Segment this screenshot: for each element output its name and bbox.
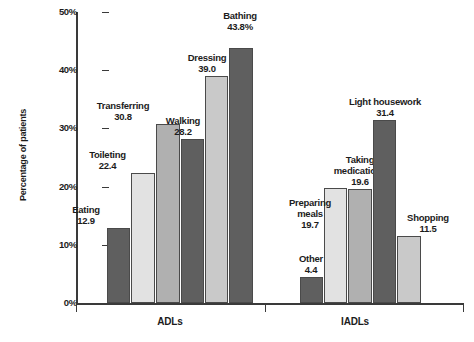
y-tick-label-50: 50% xyxy=(45,6,77,17)
bar-label-preparing-meals-line2: meals xyxy=(281,208,339,219)
bar-annot-bathing: Bathing 43.8% xyxy=(209,10,271,32)
bar-label-shopping: Shopping xyxy=(400,212,456,223)
x-tick-group-separator xyxy=(265,305,266,312)
bar-label-preparing-meals-line1: Preparing xyxy=(281,197,339,208)
y-tick-label-40: 40% xyxy=(45,64,77,75)
bar-value-preparing-meals: 19.7 xyxy=(281,219,339,230)
bar-annot-dressing: Dressing 39.0 xyxy=(182,52,232,74)
bar-shopping xyxy=(397,236,421,303)
bar-value-walking: 28.2 xyxy=(160,126,206,137)
x-tick-end xyxy=(463,305,464,312)
group-label-adls: ADLs xyxy=(130,316,210,327)
bar-dressing xyxy=(205,76,228,303)
bar-value-eating: 12.9 xyxy=(66,215,106,226)
bar-value-toileting: 22.4 xyxy=(85,160,130,171)
bar-label-eating: Eating xyxy=(66,204,106,215)
bar-value-light-housework: 31.4 xyxy=(342,107,428,118)
y-tick-label-10: 10% xyxy=(45,239,77,250)
x-axis-line xyxy=(76,303,464,305)
y-tick-label-0: 0% xyxy=(45,297,77,308)
bar-value-bathing: 43.8% xyxy=(209,21,271,32)
bar-transferring xyxy=(156,124,180,303)
bar-value-dressing: 39.0 xyxy=(182,63,232,74)
bar-chart: 50% 40% 30% 20% 10% 0% Percentage of pat… xyxy=(0,0,474,342)
group-label-iadls: IADLs xyxy=(315,316,395,327)
bar-value-transferring: 30.8 xyxy=(90,111,156,122)
bar-toileting xyxy=(131,173,155,303)
y-axis-line xyxy=(76,12,78,304)
bar-label-transferring: Transferring xyxy=(90,100,156,111)
bar-label-bathing: Bathing xyxy=(209,10,271,21)
bar-taking-medications xyxy=(348,189,372,303)
bar-annot-shopping: Shopping 11.5 xyxy=(400,212,456,234)
y-tick-label-20: 20% xyxy=(45,181,77,192)
bar-light-housework xyxy=(373,120,396,303)
bar-bathing xyxy=(229,48,253,303)
bar-value-shopping: 11.5 xyxy=(400,223,456,234)
bar-other xyxy=(300,277,323,303)
bar-label-walking: Walking xyxy=(160,115,206,126)
bar-annot-transferring: Transferring 30.8 xyxy=(90,100,156,122)
bar-annot-walking: Walking 28.2 xyxy=(160,115,206,137)
bar-eating xyxy=(107,228,130,303)
y-axis-title: Percentage of patients xyxy=(18,85,28,225)
y-tick-label-30: 30% xyxy=(45,122,77,133)
bar-label-toileting: Toileting xyxy=(85,149,130,160)
bar-annot-toileting: Toileting 22.4 xyxy=(85,149,130,171)
bar-annot-preparing-meals: Preparing meals 19.7 xyxy=(281,197,339,230)
x-tick-start xyxy=(76,305,77,312)
bar-annot-eating: Eating 12.9 xyxy=(66,204,106,226)
bar-label-dressing: Dressing xyxy=(182,52,232,63)
bar-label-light-housework: Light housework xyxy=(342,96,428,107)
bar-walking xyxy=(181,139,204,303)
bar-annot-light-housework: Light housework 31.4 xyxy=(342,96,428,118)
